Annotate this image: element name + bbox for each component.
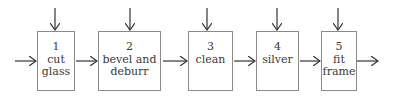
step-box-1: 1 cut glass bbox=[37, 31, 75, 91]
step-label: silver bbox=[262, 54, 293, 67]
step-box-2: 2 bevel and deburr bbox=[98, 31, 161, 91]
step-number: 4 bbox=[274, 41, 281, 54]
step-box-3: 3 clean bbox=[188, 31, 233, 91]
step-box-4: 4 silver bbox=[256, 31, 299, 91]
step-label: fit frame bbox=[323, 54, 356, 79]
step-number: 3 bbox=[207, 41, 214, 54]
step-label: clean bbox=[196, 54, 226, 67]
step-number: 2 bbox=[126, 41, 133, 54]
step-number: 5 bbox=[336, 41, 343, 54]
step-box-5: 5 fit frame bbox=[321, 31, 357, 91]
step-label: bevel and deburr bbox=[103, 54, 157, 79]
step-number: 1 bbox=[53, 41, 60, 54]
step-label: cut glass bbox=[42, 54, 70, 79]
